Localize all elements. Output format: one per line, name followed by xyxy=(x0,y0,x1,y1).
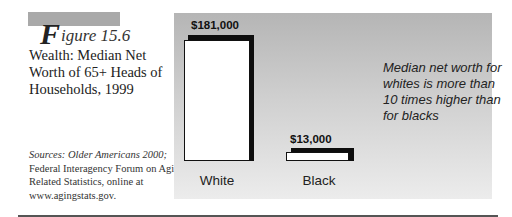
bottom-divider xyxy=(18,215,498,217)
category-label-white: White xyxy=(177,173,257,188)
sources-italic: Sources: Older Americans 2000; xyxy=(29,149,167,160)
sources-text: Federal Interagency Forum on Aging-Relat… xyxy=(29,163,188,201)
figure-initial: F xyxy=(40,17,60,50)
value-label-white: $181,000 xyxy=(191,19,239,31)
value-label-black: $13,000 xyxy=(290,133,332,145)
figure-title: Wealth: Median Net Worth of 65+ Heads of… xyxy=(29,47,179,98)
bar-black xyxy=(286,152,349,161)
chart-annotation: Median net worth for whites is more than… xyxy=(383,60,503,124)
category-label-black: Black xyxy=(279,173,359,188)
figure-sources: Sources: Older Americans 2000; Federal I… xyxy=(29,148,189,202)
figure-number: Figure 15.6 xyxy=(40,14,130,48)
figure-number-text: igure 15.6 xyxy=(61,26,130,45)
bar-white xyxy=(184,40,250,161)
